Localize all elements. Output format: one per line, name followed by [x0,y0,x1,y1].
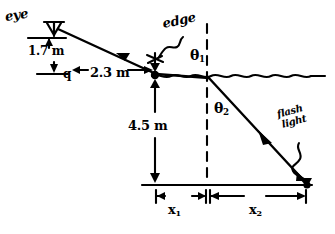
theta2-symbol: θ [214,100,223,116]
x2-label: x2 [249,203,262,217]
edge-squiggle-pointer [159,37,183,57]
x1-arrow-left-head [157,192,165,200]
eye-height-label: 1.7 m [28,45,64,57]
depth-arrow-down-head [150,173,160,183]
theta1-symbol: θ [190,47,199,63]
x2-subscript: 2 [256,208,262,218]
x2-arrow-right-head [297,192,306,200]
point-q-label: q [63,68,71,80]
horizontal-dim-arrow-left-head [72,66,80,74]
flash-squiggle-arrowhead [296,172,307,181]
x2-arrow-left-head [210,192,219,200]
horizontal-distance-label: 2.3 m [90,66,129,79]
water-depth-label: 4.5 m [128,119,167,132]
x1-arrow-right-head [198,192,206,200]
eye-label: eye [4,7,29,23]
theta1-label: θ1 [190,48,205,64]
x1-subscript: 1 [175,208,181,218]
eye-marker [44,22,64,36]
eye-height-arrow-down-head [50,64,58,73]
edge-point-dot [151,71,159,79]
refracted-ray-arrowhead [258,130,272,145]
refraction-diagram: eye 1.7 m q 2.3 m 4.5 m edge θ1 θ2 flash… [0,0,335,234]
x1-label: x1 [168,203,181,217]
theta1-subscript: 1 [199,54,205,64]
theta2-subscript: 2 [223,107,229,117]
theta2-label: θ2 [214,101,229,117]
